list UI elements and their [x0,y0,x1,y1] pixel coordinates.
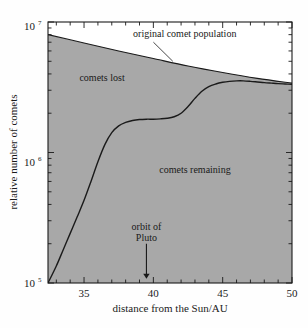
x-tick-label-50: 50 [287,287,299,299]
y-tick-label-1e6-base: 10 [24,156,36,168]
x-tick-label-45: 45 [217,287,229,299]
y-tick-label-1e5-base: 10 [24,277,36,289]
comet-population-chart: 10 7 10 6 10 5 35 40 45 50 distance from… [0,0,308,328]
orbit-of-pluto-label-line1: orbit of [132,221,162,232]
y-tick-label-1e6-exponent: 6 [38,155,42,163]
original-population-label: original comet population [133,28,236,39]
x-axis-title: distance from the Sun/AU [112,302,227,314]
comets-lost-label: comets lost [79,72,124,83]
y-tick-label-1e5-exponent: 5 [38,276,42,284]
y-tick-labels: 10 7 10 6 10 5 [24,19,42,289]
comets-remaining-label: comets remaining [159,164,230,175]
orbit-of-pluto-label-line2: Pluto [136,232,157,243]
x-tick-label-35: 35 [79,287,91,299]
y-axis-title: relative number of comets [7,94,19,209]
x-tick-label-40: 40 [148,287,160,299]
y-tick-label-1e7-exponent: 7 [38,19,42,27]
figure-container: 10 7 10 6 10 5 35 40 45 50 distance from… [0,0,308,328]
y-tick-label-1e7-base: 10 [24,20,36,32]
x-tick-labels: 35 40 45 50 [79,287,298,299]
